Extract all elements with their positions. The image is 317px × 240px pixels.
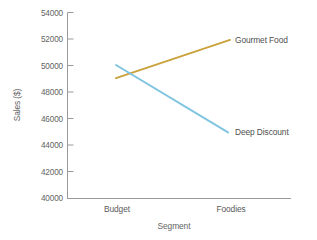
y-tick-label: 50000 [41, 62, 64, 71]
y-tick-label: 44000 [41, 141, 64, 150]
x-tick-label-foodies: Foodies [216, 204, 245, 214]
x-tick-label-budget: Budget [104, 204, 131, 214]
y-tick-label: 46000 [41, 115, 64, 124]
y-tick-label: 42000 [41, 168, 64, 177]
y-tick-label: 48000 [41, 88, 64, 97]
y-tick-label: 52000 [41, 35, 64, 44]
y-axis-title: Sales ($) [12, 88, 22, 121]
chart-screenshot: 54000 52000 50000 48000 46000 44000 4200… [0, 0, 317, 240]
y-tick-label: 40000 [41, 194, 64, 203]
line-chart: 54000 52000 50000 48000 46000 44000 4200… [0, 0, 317, 240]
series-label-gourmet-food: Gourmet Food [235, 35, 288, 45]
x-axis-title: Segment [158, 221, 192, 231]
y-tick-label: 54000 [41, 9, 64, 18]
series-label-deep-discount: Deep Discount [235, 127, 289, 137]
